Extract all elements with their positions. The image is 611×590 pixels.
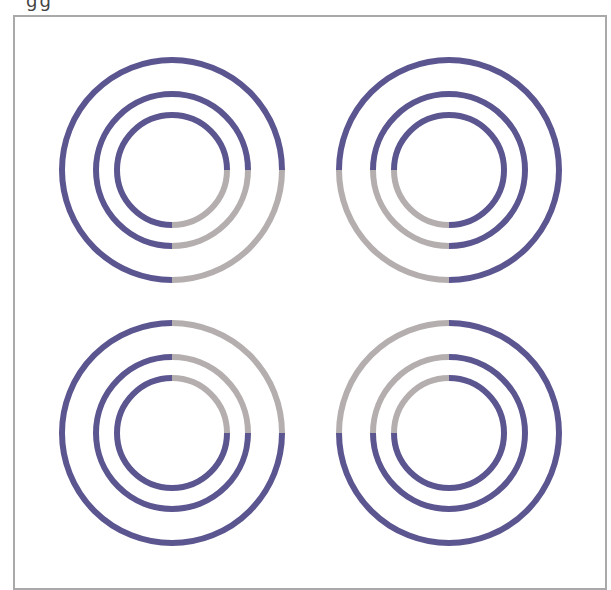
ring-group-top-right (339, 60, 559, 280)
ring-2-inactive-arc (172, 378, 227, 433)
ring-group-top-left (62, 60, 282, 280)
ring-group-bottom-right (339, 323, 559, 543)
ring-group-bottom-left (62, 323, 282, 543)
ring-2-inactive-arc (394, 170, 449, 225)
ring-2-inactive-arc (394, 378, 449, 433)
ring-2-inactive-arc (172, 170, 227, 225)
